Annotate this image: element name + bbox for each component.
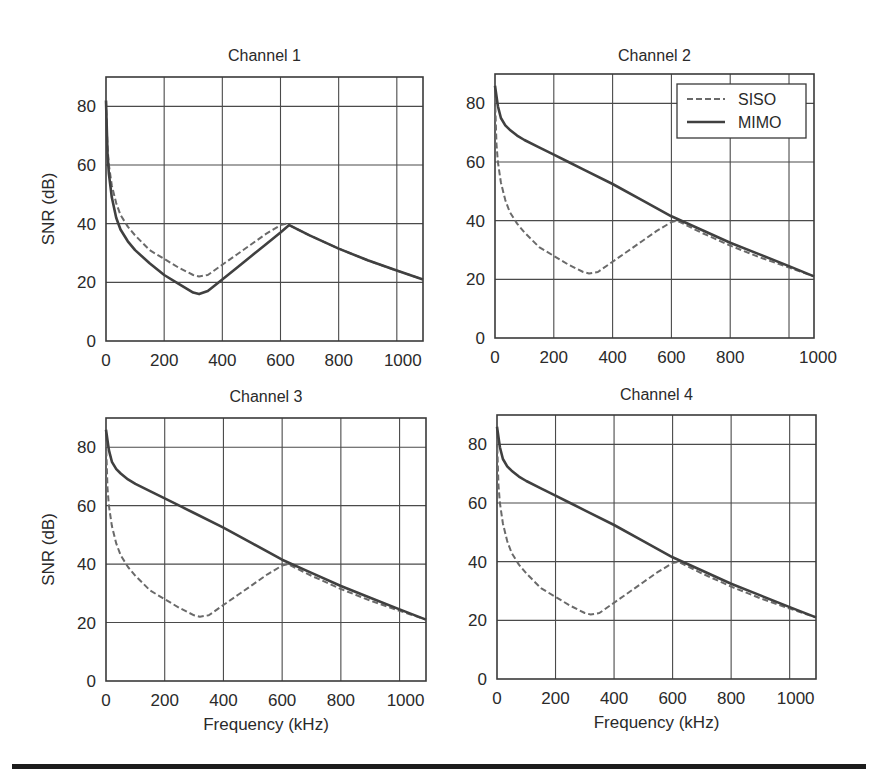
y-axis-label: SNR (dB) xyxy=(39,513,58,586)
x-tick-label: 400 xyxy=(208,351,236,370)
y-tick-labels: 020406080 xyxy=(466,94,485,348)
y-axis-label: SNR (dB) xyxy=(39,173,58,246)
y-tick-label: 40 xyxy=(77,215,96,234)
y-tick-label: 60 xyxy=(466,153,485,172)
x-tick-label: 600 xyxy=(268,691,296,710)
x-tick-label: 800 xyxy=(716,348,744,367)
siso-curve xyxy=(497,439,816,618)
x-tick-labels: 02004006008001000 xyxy=(101,351,421,370)
data-series xyxy=(497,427,816,618)
x-tick-label: 0 xyxy=(101,351,110,370)
x-tick-label: 0 xyxy=(492,689,501,708)
x-tick-label: 200 xyxy=(151,691,179,710)
y-tick-label: 80 xyxy=(468,435,487,454)
plot-frame xyxy=(106,77,423,341)
mimo-curve xyxy=(497,427,816,618)
x-tick-label: 1000 xyxy=(777,689,815,708)
y-tick-labels: 020406080 xyxy=(77,97,96,351)
x-tick-label: 200 xyxy=(541,689,569,708)
y-tick-label: 80 xyxy=(77,438,96,457)
y-tick-label: 0 xyxy=(87,332,96,351)
mimo-curve xyxy=(106,101,423,295)
x-tick-labels: 02004006008001000 xyxy=(490,348,837,367)
data-series xyxy=(106,101,423,295)
x-tick-label: 0 xyxy=(101,691,110,710)
chart-canvas: 02040608002004006008001000Channel 1SNR (… xyxy=(0,0,875,781)
x-tick-label: 1000 xyxy=(384,351,422,370)
x-tick-label: 200 xyxy=(540,348,568,367)
y-tick-label: 80 xyxy=(466,94,485,113)
x-tick-label: 400 xyxy=(600,689,628,708)
y-tick-label: 0 xyxy=(87,672,96,691)
y-tick-label: 20 xyxy=(77,614,96,633)
panel-channel-1: 02040608002004006008001000Channel 1SNR (… xyxy=(39,47,423,370)
panel-title: Channel 4 xyxy=(620,386,693,403)
y-tick-label: 40 xyxy=(466,212,485,231)
y-tick-label: 0 xyxy=(478,670,487,689)
panel-channel-3: 02040608002004006008001000Channel 3SNR (… xyxy=(39,388,426,734)
x-tick-label: 600 xyxy=(657,348,685,367)
bottom-rule-divider xyxy=(12,764,866,769)
x-tick-label: 400 xyxy=(598,348,626,367)
panel-title: Channel 2 xyxy=(618,47,691,64)
x-tick-label: 600 xyxy=(658,689,686,708)
gridlines xyxy=(106,77,423,341)
x-tick-label: 800 xyxy=(717,689,745,708)
y-tick-label: 40 xyxy=(468,553,487,572)
legend-siso-label: SISO xyxy=(738,91,776,108)
snr-figure: 02040608002004006008001000Channel 1SNR (… xyxy=(0,0,875,781)
legend-mimo-label: MIMO xyxy=(738,114,782,131)
legend: SISOMIMO xyxy=(677,84,806,138)
panel-title: Channel 3 xyxy=(230,388,303,405)
y-tick-label: 20 xyxy=(77,273,96,292)
x-axis-label: Frequency (kHz) xyxy=(203,715,329,734)
x-tick-labels: 02004006008001000 xyxy=(101,691,424,710)
y-tick-label: 20 xyxy=(466,270,485,289)
x-tick-label: 1000 xyxy=(387,691,425,710)
y-tick-label: 20 xyxy=(468,611,487,630)
x-tick-label: 1000 xyxy=(799,348,837,367)
mimo-curve xyxy=(106,430,426,620)
y-tick-labels: 020406080 xyxy=(468,435,487,689)
x-tick-labels: 02004006008001000 xyxy=(492,689,814,708)
panel-title: Channel 1 xyxy=(228,47,301,64)
x-tick-label: 800 xyxy=(327,691,355,710)
y-tick-label: 0 xyxy=(476,329,485,348)
x-tick-label: 400 xyxy=(209,691,237,710)
x-tick-label: 800 xyxy=(324,351,352,370)
x-tick-label: 0 xyxy=(490,348,499,367)
panel-channel-4: 02040608002004006008001000Channel 4Frequ… xyxy=(468,386,816,732)
y-tick-label: 60 xyxy=(77,497,96,516)
x-axis-label: Frequency (kHz) xyxy=(594,713,720,732)
y-tick-label: 80 xyxy=(77,97,96,116)
x-tick-label: 600 xyxy=(266,351,294,370)
y-tick-label: 60 xyxy=(77,156,96,175)
siso-curve xyxy=(106,441,426,619)
data-series xyxy=(106,430,426,620)
siso-curve xyxy=(106,101,423,280)
x-tick-label: 200 xyxy=(150,351,178,370)
y-tick-label: 40 xyxy=(77,555,96,574)
panel-channel-2: 02040608002004006008001000Channel 2SISOM… xyxy=(466,47,837,367)
y-tick-label: 60 xyxy=(468,494,487,513)
y-tick-labels: 020406080 xyxy=(77,438,96,691)
